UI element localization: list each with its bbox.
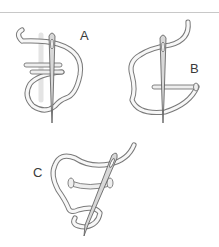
- panel-label-b: B: [190, 62, 199, 75]
- panel-b-illustration: [131, 22, 199, 123]
- stitch-illustration: [0, 0, 219, 247]
- panel-a-illustration: [19, 30, 81, 123]
- panel-label-a: A: [80, 29, 89, 42]
- panel-c-illustration: [53, 145, 134, 236]
- panel-label-c: C: [33, 166, 42, 179]
